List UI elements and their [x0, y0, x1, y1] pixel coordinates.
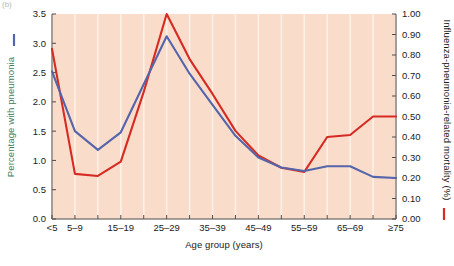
right-tick-label: 0.30: [402, 152, 421, 163]
right-tick-label: 0.10: [402, 193, 421, 204]
x-tick-label: ≥75: [388, 222, 404, 233]
x-tick-label: 35–39: [199, 222, 225, 233]
left-tick-label: 3.5: [33, 8, 46, 19]
right-tick-label: 0.00: [402, 213, 421, 224]
right-tick-label: 0.70: [402, 70, 421, 81]
left-tick-label: 2.5: [33, 67, 46, 78]
left-tick-label: 0.5: [33, 184, 46, 195]
right-tick-label: 0.20: [402, 172, 421, 183]
right-tick-label: 0.40: [402, 131, 421, 142]
right-axis-tick-labels: 0.000.100.200.300.400.500.600.700.800.90…: [402, 8, 421, 224]
left-tick-label: 1.5: [33, 126, 46, 137]
x-tick-label: 15–19: [108, 222, 134, 233]
x-axis-title: Age group (years): [185, 239, 263, 250]
x-tick-label: 25–29: [153, 222, 179, 233]
right-axis-title: Influenza-pneumonia-related mortality (%…: [442, 20, 453, 201]
x-tick-label: 5–9: [67, 222, 83, 233]
right-tick-label: 1.00: [402, 8, 421, 19]
left-axis-tick-labels: 0.00.51.01.52.02.53.03.5: [33, 8, 46, 224]
x-tick-label: <5: [47, 222, 58, 233]
x-tick-label: 55–59: [291, 222, 317, 233]
left-axis-title: Percentage with pneumonia: [5, 56, 16, 177]
chart-figure: 0.00.51.01.52.02.53.03.5 0.000.100.200.3…: [0, 0, 454, 266]
right-tick-label: 0.90: [402, 29, 421, 40]
left-tick-label: 0.0: [33, 213, 46, 224]
x-axis-tick-labels: <55–915–1925–2935–3945–4955–5965–69≥75: [47, 222, 404, 233]
plot-area-background: [52, 14, 396, 219]
right-tick-label: 0.60: [402, 90, 421, 101]
left-tick-label: 1.0: [33, 155, 46, 166]
x-tick-label: 65–69: [337, 222, 363, 233]
right-tick-label: 0.50: [402, 111, 421, 122]
right-tick-label: 0.80: [402, 49, 421, 60]
left-tick-label: 3.0: [33, 38, 46, 49]
left-tick-label: 2.0: [33, 96, 46, 107]
x-tick-label: 45–49: [245, 222, 271, 233]
